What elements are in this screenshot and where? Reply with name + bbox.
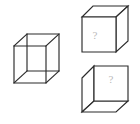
wireframe-cube-connector-bottom-left [14,71,27,83]
wireframe-cube [14,34,59,83]
opaque-cube-bottom-right: ? [82,66,128,112]
question-mark-label-top: ? [93,29,98,41]
cube-figure-container: ? ? [0,0,140,124]
question-mark-label-bottom: ? [109,73,114,85]
cube-diagram-svg: ? ? [0,0,140,124]
wireframe-cube-front-face-edges [14,46,46,83]
wireframe-cube-back-face-edges [27,34,59,71]
opaque-cube-front-face [82,17,116,52]
wireframe-cube-connector-top-left [14,34,27,46]
wireframe-cube-connector-top-right [46,34,59,46]
opaque-cube-top-right: ? [82,6,128,52]
wireframe-cube-connector-bottom-right [46,71,59,83]
